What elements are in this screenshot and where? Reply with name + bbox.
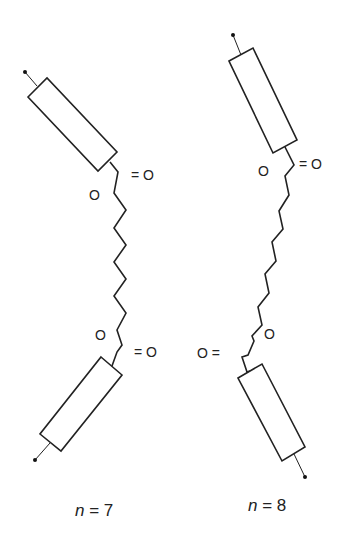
carbonyl-oxygen-label: = O	[131, 168, 154, 182]
caption-equals: =	[84, 501, 103, 520]
terminal-dot-top	[231, 33, 235, 37]
terminal-chain-bottom	[294, 454, 305, 477]
terminal-chain-top	[25, 72, 37, 86]
caption-value: 8	[277, 496, 286, 515]
mesogen-rod-top	[28, 78, 117, 171]
caption-odd: n = 7	[75, 502, 113, 520]
carbonyl-oxygen-label: O =	[197, 346, 220, 360]
carbonyl-oxygen-label: = O	[299, 157, 322, 171]
terminal-chain-bottom	[35, 443, 50, 460]
molecule-odd	[23, 70, 126, 462]
ether-oxygen-label: O	[95, 328, 106, 342]
carbonyl-oxygen-label: = O	[134, 345, 157, 359]
terminal-dot-bottom	[33, 458, 37, 462]
ether-oxygen-label: O	[264, 327, 275, 341]
terminal-dot-bottom	[303, 475, 307, 479]
molecule-even	[229, 33, 307, 479]
terminal-chain-top	[233, 35, 241, 55]
caption-equals: =	[257, 496, 276, 515]
caption-value: 7	[104, 501, 113, 520]
alkyl-spacer	[110, 162, 126, 366]
ether-oxygen-label: O	[89, 188, 100, 202]
mesogen-rod-top	[229, 48, 297, 153]
diagram-canvas	[0, 0, 352, 544]
terminal-dot-top	[23, 70, 27, 74]
caption-even: n = 8	[248, 497, 286, 515]
mesogen-rod-bottom	[238, 364, 305, 461]
ether-oxygen-label: O	[258, 164, 269, 178]
mesogen-rod-bottom	[40, 357, 122, 451]
